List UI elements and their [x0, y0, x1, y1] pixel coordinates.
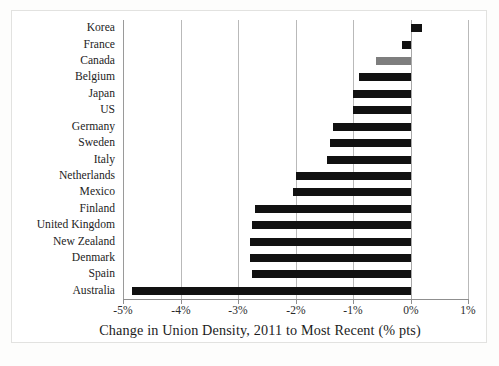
tick-label: -2% [271, 304, 321, 317]
gridline-neg5pct [123, 20, 124, 299]
category-label-japan: Japan [0, 88, 119, 100]
tick-label: 1% [443, 304, 493, 317]
tick-label: -1% [328, 304, 378, 317]
category-label-spain: Spain [0, 268, 119, 280]
category-label-australia: Australia [0, 285, 119, 297]
gridline-neg2pct [296, 20, 297, 299]
gridline-neg4pct [181, 20, 182, 299]
category-label-sweden: Sweden [0, 137, 119, 149]
tick-label: -4% [156, 304, 206, 317]
gridline-neg3pct [238, 20, 239, 299]
category-label-germany: Germany [0, 121, 119, 133]
category-label-netherlands: Netherlands [0, 170, 119, 182]
category-label-new-zealand: New Zealand [0, 236, 119, 248]
category-label-mexico: Mexico [0, 186, 119, 198]
category-label-italy: Italy [0, 154, 119, 166]
category-label-finland: Finland [0, 203, 119, 215]
gridline-1pct [468, 20, 469, 299]
tick-label: 0% [386, 304, 436, 317]
category-axis-labels: KoreaFranceCanadaBelgiumJapanUSGermanySw… [0, 20, 119, 299]
tick-label: -3% [213, 304, 263, 317]
category-label-korea: Korea [0, 22, 119, 34]
gridline-0pct [411, 20, 412, 299]
category-label-denmark: Denmark [0, 252, 119, 264]
category-label-belgium: Belgium [0, 71, 119, 83]
category-label-us: US [0, 104, 119, 116]
chart-figure: -5%-4%-3%-2%-1%0%1% KoreaFranceCanadaBel… [0, 0, 499, 366]
category-label-france: France [0, 39, 119, 51]
gridline-neg1pct [353, 20, 354, 299]
category-label-canada: Canada [0, 55, 119, 67]
category-label-united-kingdom: United Kingdom [0, 219, 119, 231]
tick-label: -5% [98, 304, 148, 317]
x-axis-title: Change in Union Density, 2011 to Most Re… [60, 322, 460, 339]
